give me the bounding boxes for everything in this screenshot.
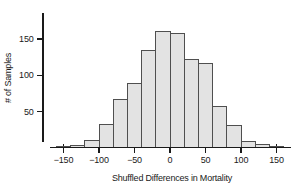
x-tick-labels-group: −150−100−50050100150 bbox=[54, 155, 284, 165]
x-axis-title: Shuffled Differences in Mortality bbox=[112, 173, 233, 183]
histogram-bar bbox=[198, 64, 212, 148]
x-tick-label: −150 bbox=[54, 155, 74, 165]
histogram-bar bbox=[127, 83, 141, 147]
y-tick-label: 100 bbox=[19, 70, 34, 80]
y-tick-label: 50 bbox=[24, 107, 34, 117]
histogram-bar bbox=[156, 31, 170, 147]
bars-group bbox=[56, 31, 283, 147]
histogram-bar bbox=[99, 124, 113, 147]
x-tick-label: 0 bbox=[168, 155, 173, 165]
histogram-figure: −150−100−50050100150 50100150 Shuffled D… bbox=[0, 0, 297, 193]
histogram-chart: −150−100−50050100150 50100150 Shuffled D… bbox=[0, 0, 297, 193]
histogram-bar bbox=[241, 142, 255, 148]
histogram-bar bbox=[184, 60, 198, 148]
y-tick-label: 150 bbox=[19, 34, 34, 44]
histogram-bar bbox=[170, 34, 184, 148]
x-tick-label: 50 bbox=[201, 155, 211, 165]
histogram-bar bbox=[113, 100, 127, 148]
histogram-bar bbox=[213, 107, 227, 148]
histogram-bar bbox=[142, 51, 156, 148]
x-tick-label: −50 bbox=[127, 155, 142, 165]
x-tick-label: 150 bbox=[269, 155, 284, 165]
y-ticks-group bbox=[37, 39, 44, 111]
histogram-bar bbox=[227, 126, 241, 148]
x-tick-label: 100 bbox=[234, 155, 249, 165]
x-tick-label: −100 bbox=[89, 155, 109, 165]
y-axis-title: # of Samples bbox=[3, 52, 13, 103]
histogram-bar bbox=[85, 140, 99, 147]
y-tick-labels-group: 50100150 bbox=[19, 34, 34, 116]
